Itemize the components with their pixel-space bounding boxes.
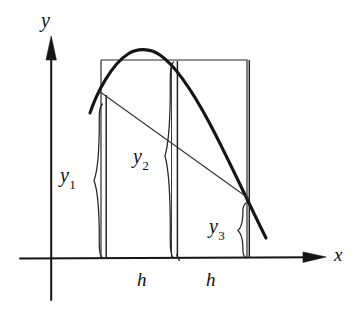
secant-path — [100, 92, 250, 200]
y-axis-arrowhead — [46, 36, 56, 60]
x-axis-line — [20, 257, 318, 258]
x-axis-arrowhead — [303, 252, 326, 262]
ordinate-label-y2: y2 — [133, 146, 148, 170]
ordinate-label-y3-subscript: 3 — [218, 228, 225, 243]
brace-y2 — [165, 62, 174, 258]
spacing-label-h-left: h — [137, 270, 147, 289]
spacing-label-h-right: h — [206, 270, 216, 289]
ordinate-label-y3-base: y — [209, 215, 218, 237]
ordinate-label-y1: y1 — [60, 165, 75, 189]
ordinate-label-y3: y3 — [209, 216, 224, 240]
brace-y3 — [238, 203, 246, 258]
ordinate-label-y2-subscript: 2 — [142, 158, 149, 173]
x-axis-label: x — [334, 245, 342, 264]
brace-y3-path — [238, 203, 246, 258]
y-axis — [46, 36, 56, 300]
secant-line — [100, 92, 250, 200]
ordinate-label-y1-subscript: 1 — [69, 177, 76, 192]
brace-y2-path — [165, 62, 174, 258]
y-axis-label: y — [41, 10, 50, 30]
ordinate-label-y1-base: y — [60, 164, 69, 186]
ordinate-label-y2-base: y — [133, 145, 142, 167]
diagram-svg — [0, 0, 355, 315]
bounding-rectangle — [101, 60, 247, 258]
rectangle-top-and-right — [101, 60, 247, 258]
figure-canvas: y x y1 y2 y3 h h — [0, 0, 355, 315]
